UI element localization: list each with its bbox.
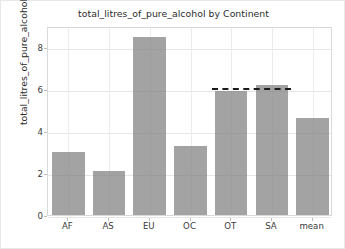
y-tick-label: 4 (3, 127, 43, 137)
bar-slot (48, 28, 89, 215)
x-tick-label: EU (143, 221, 155, 231)
bar[interactable] (93, 171, 126, 215)
bars-layer (48, 28, 331, 215)
x-tick-label: OT (224, 221, 236, 231)
x-tick-label: mean (299, 221, 323, 231)
y-tick-mark (44, 216, 47, 217)
y-tick-label: 8 (3, 43, 43, 53)
bar[interactable] (215, 91, 248, 215)
x-tick-mark (67, 218, 68, 221)
bar[interactable] (52, 152, 85, 215)
x-tick-label: AS (102, 221, 113, 231)
chart-figure: total_litres_of_pure_alcohol by Continen… (0, 0, 345, 249)
x-axis-ticks: AFASEUOCOTSAmean (47, 218, 332, 238)
x-tick-mark (149, 218, 150, 221)
bar[interactable] (256, 85, 289, 215)
x-tick-mark (230, 218, 231, 221)
x-tick-label: SA (265, 221, 277, 231)
x-tick-mark (271, 218, 272, 221)
bar-slot (211, 28, 252, 215)
y-axis-ticks: 02468 (1, 27, 47, 216)
bar-slot (292, 28, 333, 215)
x-tick-label: AF (62, 221, 73, 231)
x-tick-mark (312, 218, 313, 221)
bar[interactable] (174, 146, 207, 215)
bar[interactable] (133, 37, 166, 216)
reference-line (212, 88, 292, 90)
y-tick-label: 0 (3, 211, 43, 221)
bar-slot (252, 28, 293, 215)
bar-slot (129, 28, 170, 215)
x-tick-label: OC (183, 221, 196, 231)
y-tick-label: 2 (3, 169, 43, 179)
x-tick-mark (190, 218, 191, 221)
y-tick-label: 6 (3, 85, 43, 95)
bar-slot (89, 28, 130, 215)
x-tick-mark (108, 218, 109, 221)
plot-area (47, 27, 332, 216)
bar-slot (170, 28, 211, 215)
chart-title: total_litres_of_pure_alcohol by Continen… (1, 8, 345, 19)
bar[interactable] (296, 118, 329, 215)
